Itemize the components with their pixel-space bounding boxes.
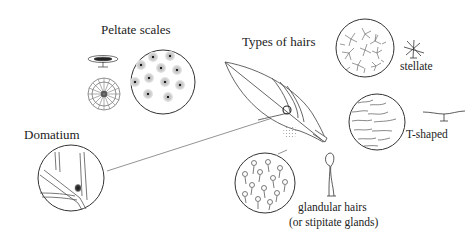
domatium-magnified-circle <box>38 145 104 211</box>
t-shaped-hair-icon <box>423 111 465 121</box>
domatium-pocket <box>75 184 82 192</box>
label-domatium: Domatium <box>24 127 80 143</box>
stellate-hair-icon <box>404 40 424 58</box>
leaf-illustration <box>225 62 327 142</box>
glandular-hair-icon <box>326 153 337 196</box>
label-peltate-scales: Peltate scales <box>101 22 171 38</box>
peltate-scales-magnified-circle <box>130 50 195 114</box>
peltate-scale-top-icon <box>88 78 120 110</box>
peltate-scale-side-icon <box>88 56 118 68</box>
t-shaped-hairs-magnified-circle <box>349 94 405 150</box>
label-stellate: stellate <box>400 60 433 72</box>
glandular-hairs-magnified-circle <box>235 153 295 213</box>
glandular-location-marker <box>283 125 297 139</box>
label-t-shaped: T-shaped <box>406 128 448 140</box>
label-glandular-hairs: glandular hairs <box>298 201 367 213</box>
diagram-canvas <box>0 0 469 243</box>
stellate-hairs-magnified-circle <box>336 19 394 77</box>
label-types-of-hairs: Types of hairs <box>242 34 315 50</box>
label-stipitate-glands: (or stipitate glands) <box>289 216 378 228</box>
